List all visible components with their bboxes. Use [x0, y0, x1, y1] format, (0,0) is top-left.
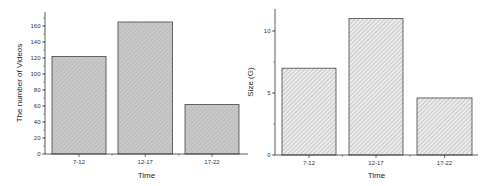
x-tick-label: 7-12 — [73, 159, 86, 165]
x-tick-label: 12-17 — [138, 159, 154, 165]
bar-charts: 0204060801001201401607-1212-1717-22TimeT… — [0, 0, 495, 186]
bar-7-12 — [52, 56, 106, 154]
bar-17-22 — [417, 98, 472, 155]
x-tick-label: 17-22 — [204, 159, 220, 165]
x-axis-label: Time — [138, 171, 156, 180]
y-tick-label: 80 — [34, 87, 41, 93]
bar-7-12 — [282, 68, 336, 155]
y-tick-label: 10 — [264, 28, 271, 34]
y-tick-label: 0 — [37, 151, 41, 157]
x-tick-label: 7-12 — [303, 160, 316, 166]
y-tick-label: 160 — [30, 23, 41, 29]
y-tick-label: 120 — [30, 55, 41, 61]
y-axis-label: Size (G) — [246, 67, 255, 97]
y-tick-label: 60 — [34, 103, 41, 109]
y-tick-label: 20 — [34, 135, 41, 141]
bar-12-17 — [118, 22, 173, 154]
x-tick-label: 17-22 — [437, 160, 453, 166]
x-tick-label: 12-17 — [368, 160, 384, 166]
bar-17-22 — [185, 104, 239, 154]
y-tick-label: 100 — [30, 71, 41, 77]
y-tick-label: 40 — [34, 119, 41, 125]
y-axis-label: The number of Videos — [15, 44, 24, 123]
video-count-chart: 0204060801001201401607-1212-1717-22TimeT… — [15, 12, 248, 180]
video-size-chart: 05107-1212-1717-22TimeSize (G) — [246, 9, 478, 180]
y-tick-label: 5 — [267, 90, 271, 96]
bar-12-17 — [349, 19, 403, 155]
x-axis-label: Time — [368, 171, 386, 180]
y-tick-label: 140 — [30, 39, 41, 45]
y-tick-label: 0 — [267, 152, 271, 158]
